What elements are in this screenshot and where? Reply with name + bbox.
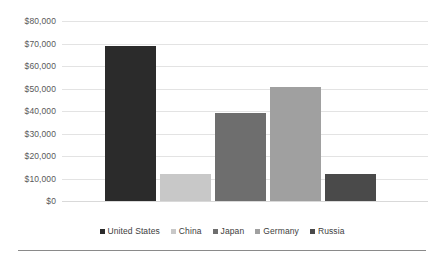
bar-chart-figure: $80,000$70,000$60,000$50,000$40,000$30,0…	[0, 0, 444, 259]
legend-swatch-icon	[255, 229, 260, 234]
y-axis-tick-label: $30,000	[0, 129, 56, 139]
bottom-divider	[18, 250, 426, 251]
legend-swatch-icon	[100, 229, 105, 234]
y-axis-tick-label: $0	[0, 196, 56, 206]
chart-legend: United StatesChinaJapanGermanyRussia	[0, 226, 444, 236]
legend-swatch-icon	[171, 229, 176, 234]
legend-label: China	[179, 226, 202, 236]
legend-item-japan[interactable]: Japan	[213, 226, 245, 236]
legend-swatch-icon	[310, 229, 315, 234]
y-axis: $80,000$70,000$60,000$50,000$40,000$30,0…	[0, 0, 56, 259]
axis-baseline	[62, 201, 428, 202]
bar-japan[interactable]	[215, 113, 266, 201]
bar-united-states[interactable]	[105, 46, 156, 201]
y-axis-tick-label: $80,000	[0, 16, 56, 26]
y-axis-tick-label: $60,000	[0, 61, 56, 71]
bars-group	[62, 21, 428, 201]
legend-item-china[interactable]: China	[171, 226, 202, 236]
y-axis-tick-label: $10,000	[0, 174, 56, 184]
legend-label: Russia	[318, 226, 345, 236]
plot-area	[62, 21, 428, 201]
y-axis-tick-label: $50,000	[0, 84, 56, 94]
legend-item-germany[interactable]: Germany	[255, 226, 299, 236]
legend-item-russia[interactable]: Russia	[310, 226, 345, 236]
bar-china[interactable]	[160, 174, 211, 201]
legend-item-united-states[interactable]: United States	[100, 226, 160, 236]
legend-label: Germany	[263, 226, 299, 236]
bar-russia[interactable]	[325, 174, 376, 201]
y-axis-tick-label: $20,000	[0, 151, 56, 161]
legend-label: Japan	[221, 226, 245, 236]
bar-germany[interactable]	[270, 87, 321, 201]
legend-label: United States	[108, 226, 160, 236]
y-axis-tick-label: $40,000	[0, 106, 56, 116]
y-axis-tick-label: $70,000	[0, 39, 56, 49]
legend-swatch-icon	[213, 229, 218, 234]
